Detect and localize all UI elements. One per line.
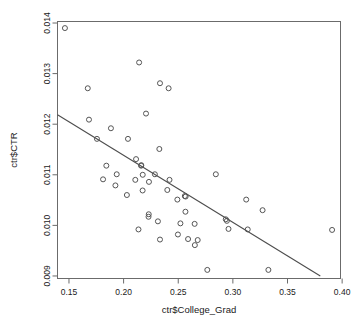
x-axis-tick-label: 0.20 [115,287,132,297]
data-point [140,172,145,177]
data-point [192,221,197,226]
data-point [213,172,218,177]
data-point [175,232,180,237]
data-point [183,209,188,214]
data-point [178,221,183,226]
data-point [113,183,118,188]
data-point [165,187,170,192]
x-axis-tick-label: 0.15 [61,287,78,297]
data-point [330,227,335,232]
y-axis-tick-label: 0.013 [43,63,53,85]
data-point [167,177,172,182]
data-point [195,238,200,243]
data-point [157,237,162,242]
data-point [192,243,197,248]
data-point [125,136,130,141]
data-point [104,163,109,168]
data-point [124,193,129,198]
data-point [101,177,106,182]
x-axis-tick-label: 0.40 [334,287,351,297]
data-point [133,177,138,182]
y-axis-tick-label: 0.011 [43,164,53,185]
data-point [260,208,265,213]
data-point [157,81,162,86]
data-point [205,267,210,272]
y-axis-title: ctr$CTR [8,132,19,168]
data-point [86,117,91,122]
plot-frame [58,22,341,279]
data-point [114,172,119,177]
y-axis-tick-label: 0.014 [43,12,53,34]
data-point [140,188,145,193]
data-point [85,86,90,91]
data-point [226,226,231,231]
data-point [146,179,151,184]
data-point [62,26,67,31]
data-point [108,126,113,131]
data-point [136,227,141,232]
scatter-plot-figure: 0.150.200.250.300.350.400.0090.0100.0110… [0,0,355,333]
x-axis-tick-label: 0.30 [225,287,242,297]
data-point [175,197,180,202]
data-point [244,197,249,202]
data-point [144,111,149,116]
x-axis-title: ctr$College_Grad [162,304,236,315]
data-point [266,267,271,272]
data-point [134,157,139,162]
y-axis-tick-label: 0.010 [43,214,53,236]
plot-canvas: 0.150.200.250.300.350.400.0090.0100.0110… [0,0,355,333]
data-point [186,237,191,242]
y-axis-tick-label: 0.012 [43,113,53,135]
data-point [137,60,142,65]
data-point [157,146,162,151]
regression-line [58,115,321,276]
data-point [166,86,171,91]
y-axis-tick-label: 0.009 [43,265,53,287]
data-point [155,219,160,224]
x-axis-tick-label: 0.35 [279,287,296,297]
x-axis-tick-label: 0.25 [170,287,187,297]
